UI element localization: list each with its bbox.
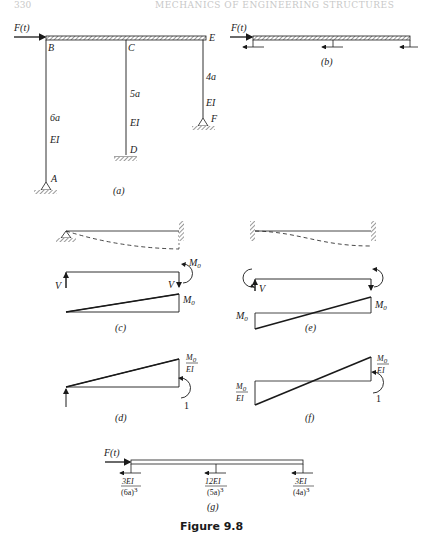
panel-d: M0 EI 1 (d) — [66, 353, 198, 424]
moment-value: M0 — [182, 294, 195, 307]
spring-stiffness-den: (6a)3 — [121, 486, 138, 497]
deflected-shape — [255, 231, 371, 246]
moment-fraction-num: M0 — [185, 353, 197, 364]
panel-label: (f) — [305, 412, 315, 424]
panel-f: M0 EI M0 EI 1 (f) — [235, 354, 389, 424]
spring-stiffness-num: 12EI — [205, 477, 221, 486]
deflected-shape — [66, 231, 179, 249]
node-b: B — [48, 42, 54, 53]
panel-e: V M0 M0 (e) — [235, 221, 387, 334]
shear-label: V — [55, 280, 63, 291]
node-e: E — [208, 32, 215, 43]
length-5a: 5a — [130, 88, 140, 99]
moment-fraction-num-left: M0 — [235, 382, 247, 393]
node-f: F — [210, 113, 218, 124]
panel-a: F(t) B C E D F A 6a EI 5a EI 4a EI (a) — [13, 22, 218, 197]
length-4a: 4a — [206, 71, 216, 82]
stiffness-cd: EI — [129, 117, 140, 128]
moment-fraction-den-left: EI — [235, 394, 244, 403]
rigid-girder — [131, 460, 303, 464]
panel-c: V V M0 M0 (c) — [55, 221, 201, 334]
fixed-wall-icon — [371, 221, 376, 241]
length-6a: 6a — [50, 112, 60, 123]
panel-label: (d) — [115, 412, 127, 424]
moment-fraction-den-right: EI — [376, 366, 385, 375]
unit-moment-icon — [373, 372, 384, 393]
node-a: A — [50, 173, 58, 184]
moment-arrow-icon — [243, 269, 252, 287]
moment-label: M0 — [188, 257, 201, 270]
panel-label: (c) — [115, 322, 127, 334]
figure-9-8: F(t) B C E D F A 6a EI 5a EI 4a EI (a) — [0, 0, 440, 545]
panel-label: (a) — [113, 185, 125, 197]
moment-fraction-den: EI — [185, 365, 194, 374]
spring-stiffness-den: (5a)3 — [207, 486, 224, 497]
node-d: D — [129, 144, 138, 155]
panel-label: (g) — [207, 501, 219, 513]
panel-b: F(t) (b) — [230, 22, 418, 68]
moment-value-left: M0 — [235, 310, 248, 323]
moment-arrow-icon — [374, 269, 383, 287]
spring-stiffness-num: 3EI — [121, 477, 134, 486]
force-label: F(t) — [230, 22, 247, 34]
stiffness-ba: EI — [49, 134, 60, 145]
unit-moment-icon — [180, 378, 191, 398]
moment-fraction-num-right: M0 — [376, 354, 388, 365]
moment-value-right: M0 — [374, 299, 387, 312]
force-label: F(t) — [103, 447, 120, 459]
rigid-girder — [46, 36, 206, 40]
spring-stiffness-num: 3EI — [294, 477, 307, 486]
pin-support-icon — [56, 231, 76, 242]
figure-caption: Figure 9.8 — [180, 520, 243, 533]
fixed-wall-icon — [179, 221, 184, 241]
panel-label: (e) — [305, 322, 317, 334]
spring-stiffness-den: (4a)3 — [293, 486, 310, 497]
shear-label: V — [168, 279, 176, 290]
stiffness-ef: EI — [205, 97, 216, 108]
panel-label: (b) — [321, 56, 333, 68]
shear-label: V — [259, 283, 267, 294]
unit-moment-label: 1 — [376, 393, 381, 404]
node-c: C — [128, 42, 135, 53]
fixed-support-icon — [114, 157, 137, 161]
force-label: F(t) — [13, 22, 30, 34]
fixed-wall-icon — [250, 221, 255, 241]
rigid-girder — [253, 36, 410, 40]
unit-moment-label: 1 — [184, 400, 189, 411]
panel-g: F(t) 3EI (6a)3 12EI (5a)3 3EI (4a)3 (g) — [103, 447, 314, 513]
